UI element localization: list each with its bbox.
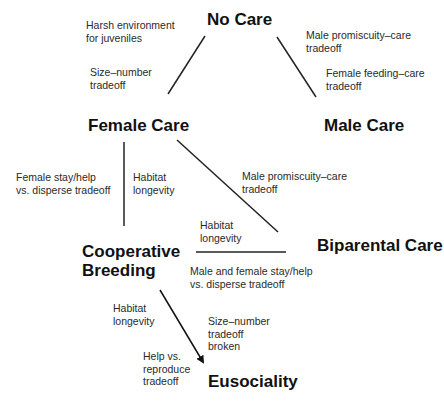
- node-female-care: Female Care: [88, 116, 189, 135]
- node-no-care: No Care: [207, 10, 272, 29]
- label-male-promiscuity-mid: Male promiscuity–caretradeoff: [242, 170, 347, 195]
- label-help-vs-reproduce: Help vs.reproducetradeoff: [143, 350, 190, 388]
- label-male-female-stay-help: Male and female stay/helpvs. disperse tr…: [190, 265, 313, 290]
- node-eusociality: Eusociality: [208, 372, 298, 391]
- label-habitat-longevity-3: Habitatlongevity: [113, 302, 154, 327]
- label-habitat-longevity-2: Habitatlongevity: [200, 219, 241, 244]
- label-harsh-environment: Harsh environmentfor juveniles: [86, 19, 175, 44]
- label-habitat-longevity-1: Habitatlongevity: [133, 171, 174, 196]
- label-female-stay-help: Female stay/helpvs. disperse tradeoff: [16, 171, 110, 196]
- label-size-number-broken: Size–numbertradeoffbroken: [208, 315, 270, 353]
- node-male-care: Male Care: [324, 116, 404, 135]
- label-female-feeding-care: Female feeding–caretradeoff: [326, 67, 425, 92]
- node-biparental-care: Biparental Care: [317, 236, 443, 255]
- label-male-promiscuity-top: Male promiscuity–caretradeoff: [306, 29, 411, 54]
- label-size-number-tradeoff: Size–numbertradeoff: [90, 66, 152, 91]
- node-cooperative-breeding-line1: Cooperative: [82, 242, 180, 261]
- node-cooperative-breeding-line2: Breeding: [82, 261, 156, 280]
- edge-nocare-female: [168, 36, 205, 94]
